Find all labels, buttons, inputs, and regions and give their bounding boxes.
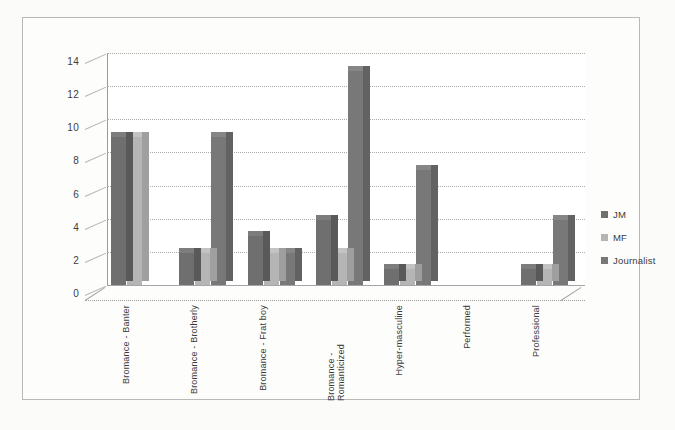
- x-axis-label-6: Performed: [462, 305, 472, 349]
- bar-face: [179, 252, 194, 285]
- y-axis-tick-label: 10: [55, 122, 79, 133]
- legend-swatch-icon: [601, 257, 608, 264]
- legend-swatch-icon: [601, 234, 608, 241]
- legend-item-jm[interactable]: JM: [601, 208, 675, 220]
- bar-side: [363, 66, 370, 281]
- bar-face: [384, 268, 399, 285]
- y-axis-tick-label: 2: [55, 255, 79, 266]
- bar-jm-2: [179, 252, 194, 285]
- x-axis-label-1: Bromance - Banter: [121, 305, 131, 384]
- bar-side: [568, 215, 575, 281]
- bar-side: [263, 231, 270, 281]
- bar-jm-4: [316, 219, 331, 285]
- bar-face: [316, 219, 331, 285]
- bar-jm-3: [248, 235, 263, 285]
- y-axis-tick-label: 0: [55, 288, 79, 299]
- bar-top: [211, 132, 226, 137]
- bar-side: [126, 132, 133, 281]
- bar-side: [331, 215, 338, 281]
- bar-top: [248, 231, 263, 236]
- bar-top: [384, 264, 399, 269]
- chart-page: 14121086420 Bromance - BanterBromance - …: [0, 0, 675, 430]
- x-axis-label-5: Hyper-masculine: [394, 305, 404, 376]
- plot-area: 14121086420: [85, 53, 585, 301]
- chart-legend: JMMFJournalist: [601, 208, 675, 277]
- bar-face: [111, 136, 126, 285]
- legend-item-mf[interactable]: MF: [601, 231, 675, 243]
- y-axis-tick-label: 6: [55, 189, 79, 200]
- bar-top: [179, 248, 194, 253]
- bar-face: [521, 268, 536, 285]
- x-axis-label-3: Bromance - Frat boy: [258, 305, 268, 391]
- legend-swatch-icon: [601, 211, 608, 218]
- y-axis-tick-label: 12: [55, 89, 79, 100]
- bar-side: [279, 248, 286, 281]
- bar-top: [348, 66, 363, 71]
- figure-frame: 14121086420 Bromance - BanterBromance - …: [22, 17, 640, 400]
- bar-face: [248, 235, 263, 285]
- bar-side: [347, 248, 354, 281]
- bar-jm-5: [384, 268, 399, 285]
- y-axis-tick-label: 4: [55, 222, 79, 233]
- legend-label: Journalist: [613, 255, 656, 266]
- bar-top: [521, 264, 536, 269]
- bar-jm-1: [111, 136, 126, 285]
- bar-side: [415, 264, 422, 281]
- bar-side: [399, 264, 406, 281]
- legend-label: JM: [613, 209, 626, 220]
- bar-top: [553, 215, 568, 220]
- bar-top: [316, 215, 331, 220]
- bar-side: [210, 248, 217, 281]
- bar-side: [552, 264, 559, 281]
- x-axis-label-2: Bromance - Brotherly: [189, 305, 199, 394]
- bar-side: [226, 132, 233, 281]
- x-axis-label-7: Professional: [531, 305, 541, 357]
- bar-side: [536, 264, 543, 281]
- bar-jm-7: [521, 268, 536, 285]
- bar-top: [111, 132, 126, 137]
- x-axis-category-labels: Bromance - BanterBromance - BrotherlyBro…: [85, 305, 585, 415]
- y-axis-tick-label: 14: [55, 56, 79, 67]
- bar-side: [194, 248, 201, 281]
- bar-top: [416, 165, 431, 170]
- bar-side: [295, 248, 302, 281]
- legend-item-journalist[interactable]: Journalist: [601, 254, 675, 266]
- y-axis-tick-label: 8: [55, 155, 79, 166]
- bar-side: [142, 132, 149, 281]
- bars-layer: [85, 53, 585, 301]
- legend-label: MF: [613, 232, 627, 243]
- x-axis-label-4: Bromance - Romanticized: [326, 305, 346, 401]
- bar-side: [431, 165, 438, 281]
